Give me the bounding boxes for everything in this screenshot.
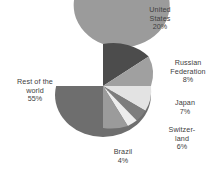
pie-chart: United States 20% Russian Federation 8% … [0, 0, 219, 183]
slice-label-russian-federation: Russian Federation 8% [160, 59, 216, 85]
slice-label-brazil: Brazil 4% [100, 148, 146, 165]
slice-label-switzerland: Switzer- land 6% [156, 126, 208, 152]
slice-label-united-states: United States 20% [131, 6, 189, 32]
slice-label-rest-of-the-world: Rest of the world 55% [4, 78, 66, 104]
slice-label-japan: Japan 7% [162, 99, 208, 116]
